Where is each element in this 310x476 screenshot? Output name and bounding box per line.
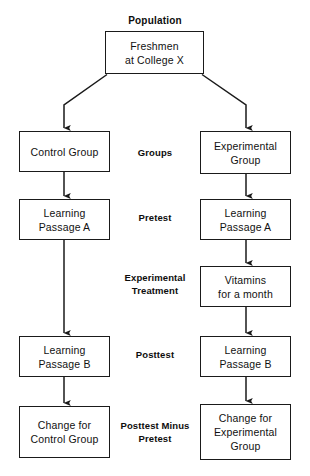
node-experimental-change-line-1: Change for [219, 411, 272, 425]
node-experimental-posttest-line-2: Passage B [219, 357, 271, 371]
stage-label-posttest-line-1: Posttest [136, 349, 174, 360]
node-experimental-pretest-line-1: Learning [224, 206, 266, 220]
node-experimental-treatment-line-1: Vitamins [225, 273, 266, 287]
node-population: Freshmen at College X [105, 31, 204, 74]
node-experimental-group-line-2: Group [231, 153, 261, 167]
stage-label-pretest: Pretest [111, 212, 199, 225]
node-control-change: Change for Control Group [19, 406, 110, 458]
stage-label-posttest: Posttest [111, 349, 199, 362]
node-control-group-line-1: Control Group [31, 145, 99, 159]
stage-label-groups: Groups [111, 147, 199, 160]
node-control-posttest-line-2: Passage B [38, 357, 90, 371]
node-control-posttest: Learning Passage B [19, 336, 110, 377]
stage-label-posttest-minus-pretest-line-1: Posttest Minus [121, 420, 190, 431]
node-control-pretest-line-1: Learning [43, 206, 85, 220]
node-experimental-pretest: Learning Passage A [200, 199, 291, 240]
node-experimental-pretest-line-2: Passage A [220, 220, 272, 234]
stage-label-experimental-treatment: Experimental Treatment [106, 272, 204, 297]
node-experimental-treatment: Vitamins for a month [200, 266, 291, 307]
node-control-group: Control Group [19, 131, 110, 172]
node-control-posttest-line-1: Learning [43, 343, 85, 357]
node-experimental-change: Change for Experimental Group [200, 404, 291, 460]
connector-population-to-control [64, 75, 107, 129]
node-control-pretest: Learning Passage A [19, 199, 110, 240]
stage-label-groups-line-1: Groups [138, 147, 172, 158]
node-control-pretest-line-2: Passage A [39, 220, 91, 234]
node-control-change-line-1: Change for [38, 418, 91, 432]
diagram-title: Population [105, 15, 205, 27]
stage-label-experimental-treatment-line-1: Experimental [125, 272, 186, 283]
node-experimental-posttest: Learning Passage B [200, 336, 291, 377]
node-experimental-posttest-line-1: Learning [224, 343, 266, 357]
connector-population-to-experimental [202, 75, 246, 129]
stage-label-experimental-treatment-line-2: Treatment [132, 285, 178, 296]
node-experimental-treatment-line-2: for a month [218, 287, 273, 301]
stage-label-posttest-minus-pretest-line-2: Pretest [139, 433, 172, 444]
node-experimental-group-line-1: Experimental [214, 139, 277, 153]
node-experimental-group: Experimental Group [200, 131, 291, 174]
stage-label-pretest-line-1: Pretest [139, 212, 172, 223]
node-population-line-2: at College X [125, 53, 184, 67]
node-population-line-1: Freshmen [130, 39, 178, 53]
node-experimental-change-line-3: Group [231, 439, 261, 453]
flowchart-diagram: Population Freshmen at College X Control… [0, 0, 310, 476]
node-control-change-line-2: Control Group [31, 432, 99, 446]
stage-label-posttest-minus-pretest: Posttest Minus Pretest [106, 420, 204, 445]
node-experimental-change-line-2: Experimental [214, 425, 277, 439]
